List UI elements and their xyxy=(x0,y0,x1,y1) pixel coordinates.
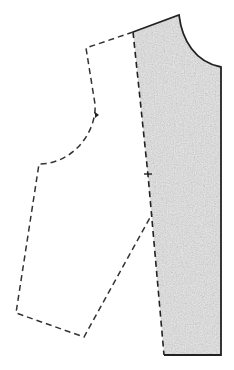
shaded-pattern-piece xyxy=(133,15,221,355)
shaded-piece-texture xyxy=(133,15,221,355)
dashed-pattern-outline xyxy=(16,32,152,337)
armhole-notch xyxy=(95,112,99,118)
pattern-diagram xyxy=(0,0,234,370)
dashed-outline-path xyxy=(16,32,152,337)
